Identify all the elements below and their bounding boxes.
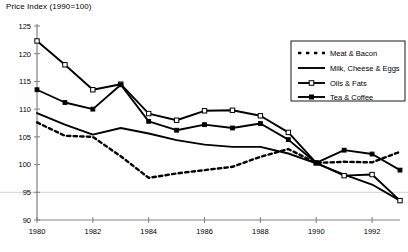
series-marker-3	[258, 122, 262, 126]
x-tick-label: 1984	[140, 227, 157, 236]
x-tick-label: 1990	[308, 227, 325, 236]
series-marker-3	[398, 168, 402, 172]
series-marker-3	[231, 126, 235, 130]
series-marker-3	[314, 161, 318, 165]
y-tick-label: 115	[19, 77, 31, 86]
series-marker-2	[63, 63, 67, 67]
legend-label-2: Oils & Fats	[330, 79, 367, 88]
series-marker-2	[202, 109, 206, 113]
series-marker-2	[286, 130, 290, 134]
series-marker-3	[147, 119, 151, 123]
chart-axis-title: Price Index (1990=100)	[6, 2, 92, 11]
series-marker-3	[203, 123, 207, 127]
legend-label-0: Meat & Bacon	[330, 49, 377, 58]
series-marker-2	[174, 118, 178, 122]
y-tick-label: 95	[23, 188, 31, 197]
y-tick-label: 105	[18, 133, 31, 142]
y-tick-label: 110	[19, 105, 31, 114]
chart-canvas: 9095100105110115120125198019821984198619…	[0, 0, 408, 252]
y-tick-label: 100	[18, 160, 31, 169]
y-tick-label: 120	[18, 50, 31, 59]
x-tick-label: 1986	[196, 227, 213, 236]
legend-label-1: Milk, Cheese & Eggs	[330, 64, 400, 73]
series-marker-3	[91, 107, 95, 111]
y-tick-label: 125	[18, 22, 31, 31]
series-marker-2	[342, 173, 346, 177]
series-marker-2	[258, 114, 262, 118]
series-marker-3	[63, 101, 67, 105]
legend-marker-3	[310, 95, 314, 99]
series-marker-2	[370, 172, 374, 176]
series-marker-2	[230, 108, 234, 112]
series-marker-3	[119, 83, 123, 87]
series-marker-2	[91, 88, 95, 92]
x-tick-label: 1988	[252, 227, 269, 236]
series-marker-2	[398, 198, 402, 202]
legend-marker-2	[309, 81, 314, 86]
x-tick-label: 1980	[29, 227, 46, 236]
series-marker-2	[146, 111, 150, 115]
series-marker-3	[175, 128, 179, 132]
x-tick-label: 1992	[364, 227, 381, 236]
series-marker-3	[342, 148, 346, 152]
x-tick-label: 1982	[85, 227, 102, 236]
series-marker-3	[370, 152, 374, 156]
series-marker-3	[35, 88, 39, 92]
series-marker-2	[35, 39, 39, 43]
legend-label-3: Tea & Coffee	[330, 93, 373, 102]
series-marker-3	[286, 138, 290, 142]
price-index-chart: Price Index (1990=100) 90951001051101151…	[0, 0, 408, 252]
y-tick-label: 90	[23, 216, 31, 225]
